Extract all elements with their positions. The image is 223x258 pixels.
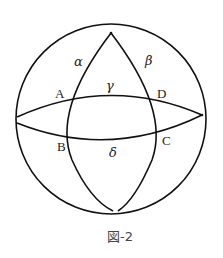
region-label-alpha: α xyxy=(74,54,83,69)
outer-circle xyxy=(16,24,206,214)
point-label-d: D xyxy=(157,86,166,101)
region-label-beta: β xyxy=(144,53,153,68)
upper-great-circle-arc xyxy=(17,95,202,117)
sphere-diagram: α β γ δ A D B C 図-2 xyxy=(0,0,223,258)
point-label-b: B xyxy=(57,139,66,154)
region-label-gamma: γ xyxy=(106,78,114,93)
figure-caption: 図-2 xyxy=(107,229,133,244)
lower-great-circle-arc xyxy=(17,115,202,140)
right-vertex xyxy=(201,114,204,117)
top-vertex xyxy=(110,32,113,35)
point-label-c: C xyxy=(162,133,171,148)
region-label-delta: δ xyxy=(109,145,117,160)
point-label-a: A xyxy=(55,86,65,101)
